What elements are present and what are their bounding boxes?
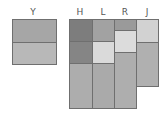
label-l: L bbox=[100, 8, 105, 17]
block-y-top bbox=[12, 19, 57, 43]
block-h-top bbox=[69, 19, 93, 42]
label-h: H bbox=[77, 8, 84, 17]
block-h-bottom bbox=[69, 63, 93, 109]
block-l-mid bbox=[92, 41, 115, 64]
label-j: J bbox=[146, 8, 149, 17]
block-h-mid bbox=[69, 41, 93, 64]
block-l-top bbox=[92, 19, 115, 42]
block-j-bottom bbox=[136, 42, 159, 87]
label-y: Y bbox=[30, 8, 36, 17]
block-l-bottom bbox=[92, 63, 115, 109]
block-r-bottom bbox=[114, 52, 137, 109]
block-y-bottom bbox=[12, 42, 57, 65]
block-j-top bbox=[136, 19, 159, 43]
block-r-mid bbox=[114, 30, 137, 53]
label-r: R bbox=[122, 8, 128, 17]
